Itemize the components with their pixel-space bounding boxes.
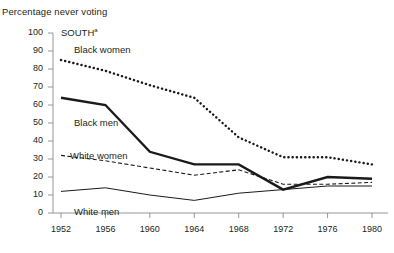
x-axis-tick-label: 1968 xyxy=(219,224,259,234)
y-axis-tick-label: 100 xyxy=(17,27,43,37)
x-axis-tick-label: 1956 xyxy=(85,224,125,234)
x-axis-tick-label: 1964 xyxy=(174,224,214,234)
chart-plot-area xyxy=(0,0,394,253)
y-axis-tick-label: 30 xyxy=(17,153,43,163)
y-axis-tick-label: 70 xyxy=(17,81,43,91)
y-axis-tick-label: 40 xyxy=(17,135,43,145)
x-axis-tick-label: 1980 xyxy=(352,224,392,234)
y-axis-tick-label: 10 xyxy=(17,189,43,199)
x-axis-tick-label: 1960 xyxy=(130,224,170,234)
series-label-white-women: White women xyxy=(70,150,128,161)
series-line-black-women xyxy=(61,60,372,164)
series-line-black-men xyxy=(61,98,372,190)
y-axis-tick-label: 20 xyxy=(17,171,43,181)
y-axis-tick-label: 90 xyxy=(17,45,43,55)
chart-container: Percentage never voting SOUTHa 010203040… xyxy=(0,0,394,253)
y-axis-tick-label: 80 xyxy=(17,63,43,73)
x-axis-tick-label: 1976 xyxy=(308,224,348,234)
chart-series-lines xyxy=(61,60,372,200)
y-axis-tick-label: 0 xyxy=(17,207,43,217)
series-label-black-women: Black women xyxy=(74,44,131,55)
y-axis-tick-label: 50 xyxy=(17,117,43,127)
x-axis-tick-label: 1972 xyxy=(263,224,303,234)
x-axis-tick-label: 1952 xyxy=(41,224,81,234)
series-label-white-men: White men xyxy=(74,206,119,217)
series-line-white-men xyxy=(61,186,372,200)
series-label-black-men: Black men xyxy=(74,117,118,128)
y-axis-tick-label: 60 xyxy=(17,99,43,109)
